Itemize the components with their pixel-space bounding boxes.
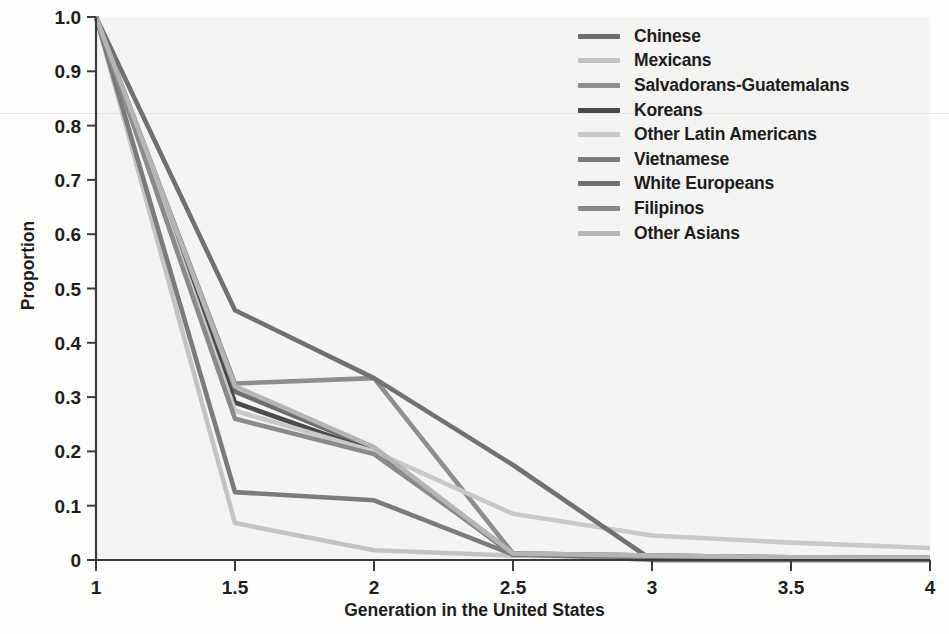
y-tick-label-0.4: 0.4: [55, 333, 82, 354]
legend-item-chinese[interactable]: Chinese: [578, 24, 908, 49]
y-tick-label-1.0: 1.0: [55, 7, 81, 28]
legend-item-other-asians[interactable]: Other Asians: [578, 221, 908, 246]
y-tick-label-0.5: 0.5: [55, 279, 82, 300]
legend-swatch-koreans: [578, 108, 620, 113]
x-tick-label-1: 1: [91, 577, 102, 598]
x-axis-title-text: Generation in the United States: [344, 600, 605, 620]
legend-swatch-filipinos: [578, 206, 620, 211]
y-tick-label-0.3: 0.3: [55, 387, 81, 408]
y-axis-title-text: Proportion: [18, 221, 38, 310]
legend-swatch-white-europeans: [578, 181, 620, 186]
x-tick-label-3-5: 3.5: [778, 577, 805, 598]
legend-swatch-salvadorans-guatemalans: [578, 83, 620, 88]
legend-item-filipinos[interactable]: Filipinos: [578, 196, 908, 221]
legend-swatch-chinese: [578, 34, 620, 39]
chart-legend: ChineseMexicansSalvadorans-GuatemalansKo…: [578, 24, 908, 245]
legend-swatch-other-asians: [578, 231, 620, 236]
legend-label-other-asians: Other Asians: [634, 223, 740, 244]
legend-item-salvadorans-guatemalans[interactable]: Salvadorans-Guatemalans: [578, 73, 908, 98]
legend-item-other-latin-americans[interactable]: Other Latin Americans: [578, 122, 908, 147]
legend-label-koreans: Koreans: [634, 100, 703, 121]
x-tick-label-4: 4: [925, 577, 936, 598]
legend-swatch-vietnamese: [578, 157, 620, 162]
legend-item-white-europeans[interactable]: White Europeans: [578, 172, 908, 197]
y-tick-label-0.2: 0.2: [55, 441, 81, 462]
legend-label-white-europeans: White Europeans: [634, 173, 774, 194]
y-axis-title: Proportion: [18, 176, 39, 356]
x-tick-label-3: 3: [647, 577, 658, 598]
legend-label-filipinos: Filipinos: [634, 198, 704, 219]
chart-figure: 00.10.20.30.40.50.60.70.80.91.011.522.53…: [0, 0, 949, 634]
legend-label-chinese: Chinese: [634, 26, 701, 47]
y-tick-label-0.7: 0.7: [55, 170, 81, 191]
legend-item-koreans[interactable]: Koreans: [578, 98, 908, 123]
legend-label-mexicans: Mexicans: [634, 50, 711, 71]
x-axis-title: Generation in the United States: [0, 600, 949, 621]
legend-label-other-latin-americans: Other Latin Americans: [634, 124, 817, 145]
x-tick-label-2-5: 2.5: [500, 577, 527, 598]
y-tick-label-0.9: 0.9: [55, 61, 81, 82]
legend-swatch-other-latin-americans: [578, 132, 620, 137]
x-tick-label-2: 2: [369, 577, 380, 598]
y-tick-label-0.8: 0.8: [55, 116, 81, 137]
legend-swatch-mexicans: [578, 58, 620, 63]
legend-item-vietnamese[interactable]: Vietnamese: [578, 147, 908, 172]
y-tick-label-0.1: 0.1: [55, 496, 82, 517]
legend-item-mexicans[interactable]: Mexicans: [578, 49, 908, 74]
x-tick-label-1-5: 1.5: [222, 577, 249, 598]
y-tick-label-0: 0: [70, 550, 81, 571]
legend-label-salvadorans-guatemalans: Salvadorans-Guatemalans: [634, 75, 849, 96]
y-tick-label-0.6: 0.6: [55, 224, 81, 245]
legend-label-vietnamese: Vietnamese: [634, 149, 729, 170]
